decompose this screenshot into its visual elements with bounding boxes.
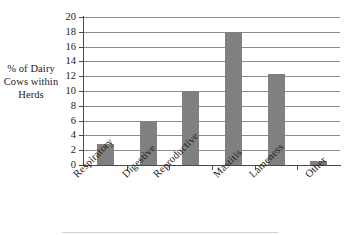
y-tick-label: 6 [36, 116, 76, 127]
gridline [84, 47, 340, 48]
y-tick-label: 18 [36, 27, 76, 38]
y-tick-mark [79, 17, 84, 18]
figure-caption-clipped: ———————————————————————— [0, 228, 350, 235]
y-tick-label: 10 [36, 86, 76, 97]
y-tick-label: 20 [36, 12, 76, 23]
bar-chart-figure: % of Dairy Cows within Herds 20181614121… [0, 0, 350, 235]
y-tick-mark [79, 76, 84, 77]
gridline [84, 91, 340, 92]
gridline [84, 121, 340, 122]
gridline [84, 17, 340, 18]
y-tick-label: 2 [36, 145, 76, 156]
y-tick-mark [79, 150, 84, 151]
y-tick-mark [79, 121, 84, 122]
gridline [84, 32, 340, 33]
y-tick-mark [79, 106, 84, 107]
gridline [84, 135, 340, 136]
gridline [84, 106, 340, 107]
y-tick-label: 14 [36, 56, 76, 67]
y-tick-mark [79, 47, 84, 48]
y-tick-mark [79, 91, 84, 92]
gridline [84, 61, 340, 62]
plot-area [84, 17, 340, 165]
gridline [84, 150, 340, 151]
figure-caption-text: ———————————————————————— [62, 228, 278, 235]
y-tick-label: 16 [36, 42, 76, 53]
y-tick-mark [79, 32, 84, 33]
y-tick-label: 0 [36, 160, 76, 171]
y-tick-label: 12 [36, 71, 76, 82]
gridline [84, 76, 340, 77]
y-tick-mark [79, 135, 84, 136]
y-tick-label: 8 [36, 101, 76, 112]
y-tick-label: 4 [36, 130, 76, 141]
bar-mastitis [225, 32, 242, 165]
y-tick-mark [79, 61, 84, 62]
x-tick-mark [297, 165, 298, 170]
